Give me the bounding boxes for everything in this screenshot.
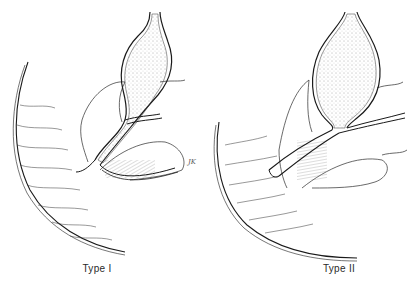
artist-signature: JK — [188, 158, 196, 166]
type-2-illustration — [207, 0, 414, 282]
panel-type-2: Type II — [207, 0, 414, 282]
bile-duct-cyst — [76, 12, 178, 180]
bile-duct-cyst — [269, 12, 405, 177]
duodenal-folds — [17, 105, 112, 240]
panel-type-1: JK Type I — [0, 0, 207, 282]
type-1-illustration — [0, 0, 207, 282]
panel-label-type-1: Type I — [57, 263, 137, 274]
duodenum-wall — [13, 62, 125, 255]
panel-label-type-2: Type II — [299, 263, 379, 274]
